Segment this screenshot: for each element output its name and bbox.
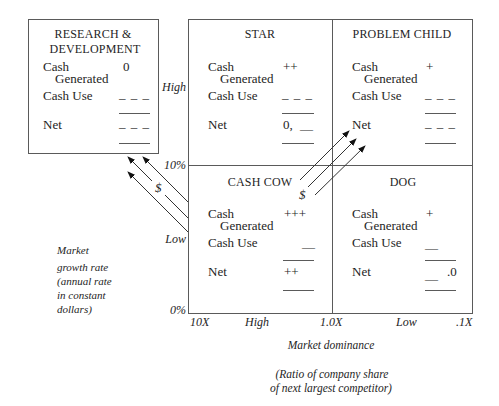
cash-cow-net-label: Net — [208, 265, 227, 279]
cash-cow-title: CASH COW — [228, 175, 293, 189]
y-axis-label-line: in constant — [57, 288, 106, 302]
x-axis-sublabel-line: of next largest competitor) — [270, 381, 392, 395]
y-axis-label-line: growth rate — [57, 260, 108, 274]
x-tick-10x: 10X — [190, 315, 209, 329]
dog-cash-use-label: Cash Use — [352, 236, 401, 250]
problem-child-cash-generated-label-2: Generated — [364, 72, 417, 86]
dog-net-label: Net — [352, 265, 371, 279]
dog-cash-generated-label-2: Generated — [364, 219, 417, 233]
y-axis-label-line: dollars) — [57, 302, 92, 316]
cash-cow-net-value: ++ — [284, 265, 299, 279]
star-net-value-2: — — [300, 122, 313, 136]
y-axis-label-line: Market — [57, 243, 89, 257]
y-tick-10-percent: 10% — [164, 158, 186, 172]
dog-net-value-2: .0 — [447, 265, 457, 279]
y-tick-0-percent: 0% — [170, 303, 186, 317]
star-title: STAR — [245, 27, 276, 41]
cash-cow-cash-generated-label-2: Generated — [220, 219, 273, 233]
star-cash-generated-label-2: Generated — [220, 72, 273, 86]
cash-cow-cash-generated-value: +++ — [284, 207, 306, 221]
x-tick-low: Low — [396, 315, 417, 329]
x-axis-label: Market dominance — [288, 338, 375, 352]
cash-cow-cash-use-label: Cash Use — [208, 236, 257, 250]
problem-child-net-label: Net — [352, 118, 371, 132]
rd-net-value: – – – — [119, 120, 150, 134]
y-axis-label-line: (annual rate — [57, 274, 112, 288]
problem-child-cash-generated-value: + — [426, 60, 433, 74]
dollar-icon-flow-to-problem-child: $ — [299, 188, 306, 202]
star-net-label: Net — [208, 118, 227, 132]
problem-child-net-value: – – – — [425, 120, 456, 134]
star-cash-use-value: – – – — [282, 91, 313, 105]
rd-cash-generated-label-2: Generated — [55, 72, 108, 86]
x-tick-1x: 1.0X — [320, 315, 342, 329]
star-cash-generated-value: ++ — [283, 60, 298, 74]
problem-child-cash-use-value: – – – — [425, 91, 456, 105]
rd-title-line2: DEVELOPMENT — [50, 42, 141, 56]
dollar-icon-flow-to-rd: $ — [155, 181, 162, 195]
x-tick-high: High — [245, 315, 269, 329]
dog-net-value: — — [425, 272, 438, 286]
dog-cash-use-value: — — [425, 241, 438, 255]
problem-child-cash-use-label: Cash Use — [352, 89, 401, 103]
x-tick-0-1x: .1X — [456, 315, 472, 329]
diagram-lines — [0, 0, 499, 406]
growth-share-matrix-diagram: RESEARCH & DEVELOPMENT Cash Generated 0 … — [0, 0, 499, 406]
rd-cash-use-label: Cash Use — [43, 89, 92, 103]
rd-cash-generated-value: 0 — [123, 60, 130, 74]
problem-child-title: PROBLEM CHILD — [353, 27, 452, 41]
rd-title-line1: RESEARCH & — [54, 27, 131, 41]
dog-cash-generated-value: + — [426, 207, 433, 221]
y-tick-high: High — [162, 80, 186, 94]
y-tick-low: Low — [165, 232, 186, 246]
dog-title: DOG — [390, 175, 417, 189]
star-cash-use-label: Cash Use — [208, 89, 257, 103]
x-axis-sublabel-line: (Ratio of company share — [276, 367, 389, 381]
rd-cash-use-value: – – – — [119, 91, 150, 105]
cash-cow-cash-use-value: — — [302, 240, 315, 254]
star-net-value: 0, — [283, 118, 293, 132]
rd-net-label: Net — [43, 118, 62, 132]
